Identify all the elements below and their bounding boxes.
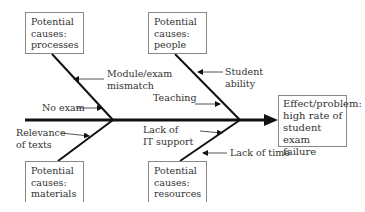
category-label-line: materials <box>31 188 83 200</box>
cause-relevance-of-texts: Relevance of texts <box>16 127 66 150</box>
category-label-line: causes: <box>154 177 206 189</box>
cause-label-line: of texts <box>16 139 66 151</box>
category-label-line: processes <box>31 39 83 51</box>
cause-label-line: Module/exam <box>107 68 172 80</box>
cause-label-line: No exam <box>42 102 85 114</box>
cause-label-line: Teaching <box>153 92 197 104</box>
cause-label-line: Lack of time <box>230 147 290 159</box>
effect-label-line: student exam <box>283 122 346 146</box>
fishbone-diagram: Potential causes: processes Potential ca… <box>0 0 365 212</box>
category-label-line: Potential <box>31 16 83 28</box>
cause-label-line: Lack of <box>143 124 193 136</box>
cause-module-exam-mismatch: Module/exam mismatch <box>107 68 172 91</box>
category-label-line: causes: <box>31 177 83 189</box>
category-label-line: causes: <box>31 28 83 40</box>
category-box-processes: Potential causes: processes <box>25 12 84 54</box>
cause-no-exam: No exam <box>42 102 85 114</box>
effect-box: Effect/problem: high rate of student exa… <box>278 95 347 147</box>
cause-label-line: ability <box>225 78 263 90</box>
category-label-line: causes: <box>154 28 206 40</box>
cause-label-line: mismatch <box>107 80 172 92</box>
category-label-line: people <box>154 39 206 51</box>
spine-arrowhead-icon <box>264 114 278 126</box>
effect-label-line: Effect/problem: <box>283 98 346 110</box>
cause-lack-of-it-support: Lack of IT support <box>143 124 193 147</box>
category-label-line: Potential <box>31 165 83 177</box>
category-label-line: resources <box>154 188 206 200</box>
cause-student-ability: Student ability <box>225 66 263 89</box>
category-box-resources: Potential causes: resources <box>148 161 207 202</box>
cause-label-line: Student <box>225 66 263 78</box>
category-box-people: Potential causes: people <box>148 12 207 54</box>
category-box-materials: Potential causes: materials <box>25 161 84 202</box>
category-label-line: Potential <box>154 165 206 177</box>
cause-label-line: Relevance <box>16 127 66 139</box>
effect-label-line: failure <box>283 146 346 158</box>
cause-label-line: IT support <box>143 136 193 148</box>
cause-lack-of-time: Lack of time <box>230 147 290 159</box>
cause-teaching: Teaching <box>153 92 197 104</box>
effect-label-line: high rate of <box>283 110 346 122</box>
category-label-line: Potential <box>154 16 206 28</box>
